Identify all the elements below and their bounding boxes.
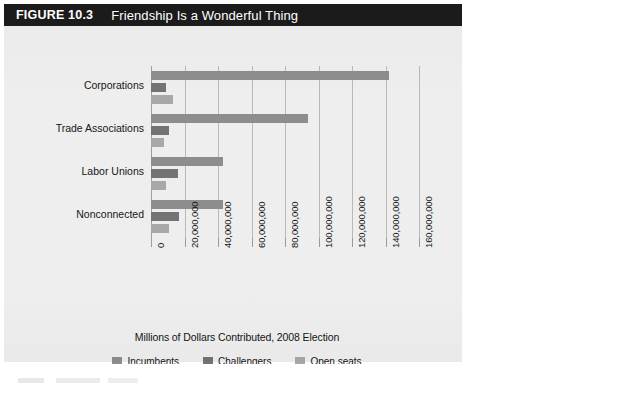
bar-group [151, 152, 419, 195]
bar-challengers [151, 126, 169, 135]
bar-incumbents [151, 114, 308, 123]
bar-open-seats [151, 95, 173, 104]
x-tick-label: 160,000,000 [423, 196, 434, 248]
x-tick-label: 40,000,000 [222, 201, 233, 248]
figure-container: FIGURE 10.3 Friendship Is a Wonderful Th… [0, 4, 633, 364]
figure-title: Friendship Is a Wonderful Thing [111, 8, 298, 23]
axis-tick [319, 238, 320, 247]
x-tick-label: 60,000,000 [256, 201, 267, 248]
x-tick-label: 100,000,000 [323, 196, 334, 248]
category-axis-labels: CorporationsTrade AssociationsLabor Unio… [24, 66, 144, 238]
bar-incumbents [151, 200, 223, 209]
sidebar-panel: Political action committees (PACs) are m… [470, 8, 633, 368]
x-tick-label: 140,000,000 [390, 196, 401, 248]
axis-tick [252, 238, 253, 247]
bar-group [151, 66, 419, 109]
axis-tick [352, 238, 353, 247]
figure-title-bar: FIGURE 10.3 Friendship Is a Wonderful Th… [4, 4, 462, 26]
figure-number: FIGURE 10.3 [16, 8, 93, 22]
bar-incumbents [151, 157, 223, 166]
category-label: Corporations [84, 79, 144, 91]
chart-panel: CorporationsTrade AssociationsLabor Unio… [4, 26, 462, 362]
x-axis-tick-labels: 020,000,00040,000,00060,000,00080,000,00… [151, 248, 441, 328]
page-scan-artifact [56, 378, 100, 383]
axis-tick [218, 238, 219, 247]
x-axis-title: Millions of Dollars Contributed, 2008 El… [8, 331, 466, 343]
axis-tick [285, 238, 286, 247]
page-bottom-margin [0, 364, 633, 398]
x-tick-label: 20,000,000 [189, 201, 200, 248]
category-label: Trade Associations [56, 122, 144, 134]
page-scan-artifact [18, 378, 44, 383]
category-label: Nonconnected [76, 208, 144, 220]
category-label: Labor Unions [82, 165, 144, 177]
x-tick-label: 0 [155, 243, 166, 248]
bar-open-seats [151, 138, 164, 147]
page-scan-artifact [108, 378, 138, 383]
bar-open-seats [151, 181, 166, 190]
bar-challengers [151, 212, 179, 221]
bar-challengers [151, 83, 166, 92]
bar-group [151, 109, 419, 152]
x-tick-label: 80,000,000 [289, 201, 300, 248]
axis-tick [419, 238, 420, 247]
axis-tick [185, 238, 186, 247]
bar-incumbents [151, 71, 389, 80]
bar-open-seats [151, 224, 169, 233]
bar-challengers [151, 169, 178, 178]
axis-tick [386, 238, 387, 247]
gridline [419, 66, 420, 238]
x-tick-label: 120,000,000 [356, 196, 367, 248]
